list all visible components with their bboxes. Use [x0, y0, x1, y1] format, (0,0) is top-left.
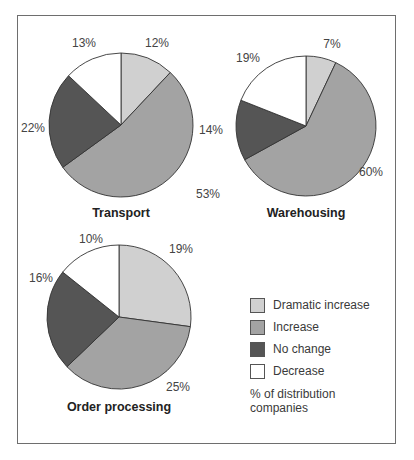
swatch-no-change-icon: [250, 342, 265, 357]
legend-item-dramatic-increase: Dramatic increase: [250, 294, 370, 316]
pie-title: Warehousing: [267, 206, 346, 220]
legend-note: % of distribution companies: [250, 387, 370, 415]
pie-title: Transport: [92, 206, 150, 220]
swatch-dramatic-increase-icon: [250, 298, 265, 313]
slice-label: 10%: [79, 232, 103, 246]
legend-label: Increase: [273, 320, 319, 334]
legend-item-decrease: Decrease: [250, 360, 370, 382]
slice-label: 13%: [72, 36, 96, 50]
pie-order-processing: 19%25%16%10%Order processing: [29, 232, 193, 414]
legend-label: Decrease: [273, 364, 324, 378]
legend-label: Dramatic increase: [273, 298, 370, 312]
swatch-increase-icon: [250, 320, 265, 335]
slice-label: 19%: [169, 242, 193, 256]
legend-item-no-change: No change: [250, 338, 370, 360]
slice-label: 22%: [21, 121, 45, 135]
slice-label: 14%: [199, 123, 223, 137]
slice-label: 19%: [236, 51, 260, 65]
slice-label: 7%: [323, 37, 341, 51]
legend-item-increase: Increase: [250, 316, 370, 338]
pie-transport: 12%53%22%13%Transport: [21, 36, 220, 220]
slice-label: 53%: [196, 187, 220, 201]
swatch-decrease-icon: [250, 364, 265, 379]
pie-title: Order processing: [67, 400, 171, 414]
pie-warehousing: 7%60%14%19%Warehousing: [199, 37, 383, 220]
slice-label: 16%: [29, 271, 53, 285]
slice-label: 25%: [166, 380, 190, 394]
slice-dramatic-increase: [119, 245, 191, 327]
legend: Dramatic increase Increase No change Dec…: [250, 294, 370, 415]
slice-label: 12%: [145, 36, 169, 50]
slice-label: 60%: [359, 165, 383, 179]
legend-label: No change: [273, 342, 331, 356]
